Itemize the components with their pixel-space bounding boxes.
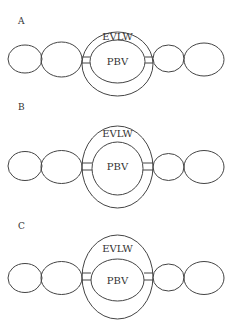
pbv-label: PBV (107, 56, 129, 67)
diagram-panels: AEVLWPBVBEVLWPBVCEVLWPBV (8, 16, 224, 319)
panel-c-label: C (18, 221, 25, 231)
panel-b-label: B (18, 102, 25, 112)
pbv-label: PBV (107, 161, 129, 172)
alveolus-lobe (41, 262, 82, 295)
alveolus-lobe (8, 152, 42, 181)
alveolus-lobe (184, 43, 224, 76)
alveolus-lobe (41, 151, 82, 184)
alveolus-lobe (153, 45, 184, 72)
alveolus-lobe (184, 151, 224, 184)
panel-b: BEVLWPBV (8, 102, 224, 208)
evlw-label: EVLW (102, 128, 133, 139)
panel-a: AEVLWPBV (8, 16, 224, 96)
evlw-label: EVLW (102, 243, 133, 254)
pbv-label: PBV (107, 275, 129, 286)
alveolus-lobe (8, 45, 42, 73)
alveolus-lobe (41, 42, 82, 77)
alveolus-lobe (8, 264, 42, 293)
alveolus-lobe (153, 264, 184, 291)
evlw-label: EVLW (102, 31, 133, 42)
alveolus-lobe (153, 154, 184, 181)
panel-a-label: A (17, 16, 25, 26)
alveolus-lobe (184, 262, 224, 295)
panel-c: CEVLWPBV (8, 221, 224, 319)
evlw-pbv-diagram: AEVLWPBVBEVLWPBVCEVLWPBV (0, 0, 240, 328)
